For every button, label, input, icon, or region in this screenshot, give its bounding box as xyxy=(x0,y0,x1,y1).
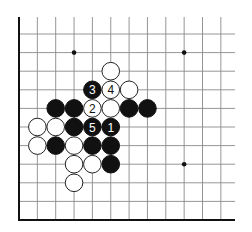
numbered-white-stone: 4 xyxy=(102,81,120,99)
white-stone xyxy=(65,174,83,192)
black-stone xyxy=(65,118,83,136)
white-stone xyxy=(120,81,138,99)
move-number: 4 xyxy=(107,83,114,97)
move-number: 1 xyxy=(107,121,114,135)
black-stone xyxy=(102,155,120,173)
black-stone xyxy=(65,100,83,118)
white-stone-icon xyxy=(84,155,102,173)
numbered-black-stone: 1 xyxy=(102,118,120,136)
star-point-icon xyxy=(72,50,77,55)
star-point-icon xyxy=(182,162,187,167)
white-stone xyxy=(65,137,83,155)
move-number: 3 xyxy=(89,83,96,97)
black-stone xyxy=(102,137,120,155)
black-stone xyxy=(84,137,102,155)
white-stone-icon xyxy=(47,118,65,136)
move-number: 2 xyxy=(89,102,96,116)
white-stone-icon xyxy=(65,137,83,155)
white-stone xyxy=(65,155,83,173)
move-number: 5 xyxy=(89,121,96,135)
black-stone xyxy=(47,137,65,155)
black-stone-icon xyxy=(84,137,102,155)
black-stone-icon xyxy=(47,100,65,118)
black-stone-icon xyxy=(47,137,65,155)
numbered-white-stone: 2 xyxy=(84,100,102,118)
white-stone-icon xyxy=(102,62,120,80)
black-stone-icon xyxy=(120,100,138,118)
white-stone-icon xyxy=(29,118,47,136)
white-stone xyxy=(29,118,47,136)
white-stone xyxy=(47,118,65,136)
white-stone-icon xyxy=(29,137,47,155)
white-stone xyxy=(29,137,47,155)
black-stone-icon xyxy=(102,137,120,155)
grid-lines xyxy=(19,17,235,220)
black-stone xyxy=(139,100,157,118)
numbered-black-stone: 5 xyxy=(84,118,102,136)
white-stone-icon xyxy=(120,81,138,99)
white-stone-icon xyxy=(65,174,83,192)
black-stone xyxy=(47,100,65,118)
numbered-black-stone: 3 xyxy=(84,81,102,99)
white-stone xyxy=(102,62,120,80)
black-stone-icon xyxy=(102,155,120,173)
white-stone-icon xyxy=(102,100,120,118)
black-stone xyxy=(120,100,138,118)
white-stone-icon xyxy=(65,155,83,173)
go-board: 34251 xyxy=(0,0,252,232)
black-stone-icon xyxy=(139,100,157,118)
black-stone-icon xyxy=(65,118,83,136)
black-stone-icon xyxy=(65,100,83,118)
star-point-icon xyxy=(182,50,187,55)
white-stone xyxy=(84,155,102,173)
white-stone xyxy=(102,100,120,118)
